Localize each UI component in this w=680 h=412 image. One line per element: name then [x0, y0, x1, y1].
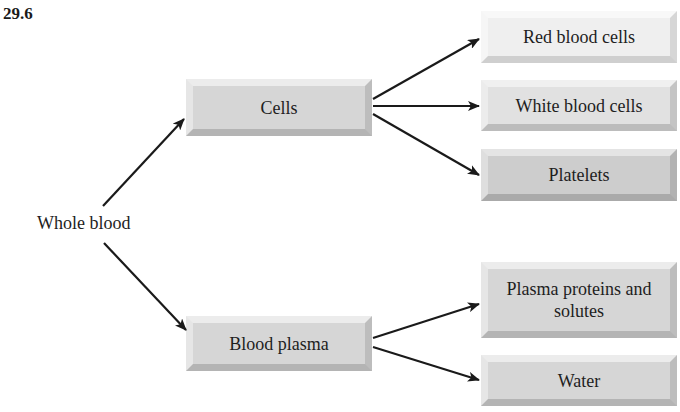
- node-blood-plasma-label: Blood plasma: [229, 333, 329, 355]
- node-blood-plasma: Blood plasma: [186, 316, 372, 371]
- arrow-cells-to-platelets: [373, 114, 479, 175]
- arrow-whole-blood-to-cells: [103, 119, 184, 206]
- node-plasma-proteins-label: Plasma proteins and solutes: [498, 278, 660, 322]
- node-water: Water: [481, 355, 677, 406]
- node-white-blood-cells: White blood cells: [481, 80, 677, 131]
- arrow-plasma-to-proteins: [373, 304, 479, 338]
- node-cells-label: Cells: [260, 97, 297, 119]
- arrow-whole-blood-to-plasma: [104, 243, 186, 330]
- figure-number: 29.6: [3, 4, 33, 24]
- node-white-blood-cells-label: White blood cells: [516, 95, 643, 117]
- arrow-cells-to-red-blood-cells: [373, 39, 479, 99]
- node-platelets-label: Platelets: [549, 164, 610, 186]
- node-cells: Cells: [186, 79, 372, 136]
- arrow-plasma-to-water: [373, 347, 479, 380]
- node-red-blood-cells: Red blood cells: [481, 11, 677, 63]
- node-red-blood-cells-label: Red blood cells: [523, 26, 635, 48]
- node-water-label: Water: [558, 370, 601, 392]
- node-platelets: Platelets: [481, 149, 677, 201]
- node-plasma-proteins-and-solutes: Plasma proteins and solutes: [481, 262, 677, 338]
- root-node-whole-blood: Whole blood: [37, 213, 130, 234]
